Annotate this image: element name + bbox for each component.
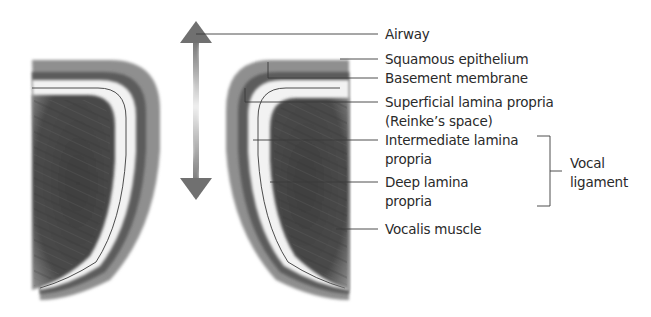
label-deep-lamina-propria-2: propria — [385, 193, 432, 209]
left-vocal-fold — [32, 60, 160, 300]
label-basement-membrane: Basement membrane — [385, 70, 528, 86]
label-vocal-ligament: Vocal — [570, 155, 605, 171]
label-intermediate-lamina-propria: Intermediate lamina — [385, 132, 518, 148]
label-airway: Airway — [385, 26, 430, 42]
label-vocalis-muscle: Vocalis muscle — [385, 221, 481, 237]
arrow-head-up — [180, 21, 212, 43]
arrow-head-down — [180, 178, 212, 200]
right-vocal-fold — [226, 60, 349, 300]
label-intermediate-lamina-propria-2: propria — [385, 151, 432, 167]
label-superficial-lamina-propria: Superficial lamina propria — [385, 94, 554, 110]
vocal-fold-diagram — [0, 0, 651, 317]
label-vocal-ligament-2: ligament — [570, 174, 628, 190]
label-squamous-epithelium: Squamous epithelium — [385, 51, 528, 67]
label-reinkes-space: (Reinke’s space) — [385, 113, 493, 129]
vocal-ligament-bracket — [537, 136, 550, 206]
label-deep-lamina-propria: Deep lamina — [385, 174, 468, 190]
airway-arrow-icon — [180, 21, 212, 200]
